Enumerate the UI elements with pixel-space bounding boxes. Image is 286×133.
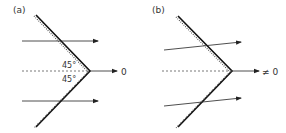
v-mirror-b-hatch <box>176 17 230 128</box>
panel-b-label: (b) <box>152 5 165 15</box>
ray-top-b <box>164 42 241 50</box>
diagram: (a) 0 45° 45° (b) ≠ 0 <box>0 0 286 133</box>
output-label-b: ≠ 0 <box>262 67 278 77</box>
v-mirror-a-hatch <box>34 16 88 128</box>
angle-top-label: 45° <box>62 61 76 70</box>
angle-bottom-label: 45° <box>62 75 76 84</box>
ray-bottom-b <box>164 98 241 106</box>
output-label-a: 0 <box>121 67 127 77</box>
panel-a: (a) 0 45° 45° <box>13 5 127 128</box>
panel-a-label: (a) <box>13 5 26 15</box>
panel-b: (b) ≠ 0 <box>152 5 278 128</box>
v-mirror-b <box>178 16 232 127</box>
